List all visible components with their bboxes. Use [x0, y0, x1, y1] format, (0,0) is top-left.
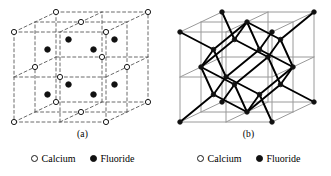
calcium-ion — [11, 29, 16, 34]
calcium-ion — [220, 10, 225, 15]
calcium-ion — [32, 64, 37, 69]
calcium-ion — [145, 9, 150, 14]
fluoride-ion — [278, 82, 283, 87]
calcium-ion — [178, 30, 183, 35]
panel-a-caption: (a) — [0, 128, 165, 140]
fluoride-ion — [66, 82, 72, 88]
fluoride-ion — [211, 47, 216, 52]
calcium-ion — [312, 100, 317, 105]
fluoride-ion — [211, 92, 216, 97]
fluoride-ion — [91, 92, 97, 98]
fluoride-ion — [66, 37, 72, 43]
legend-label-fluoride: Fluoride — [101, 152, 135, 165]
calcium-ion — [199, 65, 204, 70]
ion-bond — [214, 50, 227, 78]
calcium-ion — [53, 9, 58, 14]
calcium-ion — [312, 10, 317, 15]
calcium-ion — [78, 19, 83, 24]
filled-circle-icon — [256, 155, 263, 162]
cell-edge — [14, 12, 56, 32]
ion-bond — [235, 40, 269, 58]
ion-bond — [268, 57, 281, 85]
calcium-ion — [103, 119, 108, 124]
fluoride-ion — [112, 82, 118, 88]
fluoride-ion — [278, 37, 283, 42]
calcium-ion — [266, 55, 271, 60]
calcium-ion — [270, 120, 275, 125]
calcium-ion — [220, 100, 225, 105]
ion-bond — [222, 85, 235, 103]
calcium-ion — [99, 54, 104, 59]
ion-bond — [222, 12, 235, 40]
panel-a-fluorite-unit-cell: (a) Calcium Fluoride — [0, 0, 165, 176]
unit-cell-diagram-a — [0, 0, 165, 130]
calcium-ion — [145, 99, 150, 104]
calcium-ion — [57, 74, 62, 79]
legend-entry-fluoride-a: Fluoride — [90, 152, 135, 165]
cell-edge — [106, 12, 148, 32]
fluoride-ion — [112, 37, 118, 43]
ion-bond — [226, 50, 260, 78]
panel-b-fluorite-bonded-cell: (b) Calcium Fluoride — [166, 0, 331, 176]
ion-bond — [268, 40, 281, 58]
calcium-ion — [178, 120, 183, 125]
legend-label-calcium: Calcium — [42, 152, 76, 165]
ion-bond — [235, 57, 269, 85]
open-circle-icon — [31, 155, 38, 162]
calcium-ion — [53, 99, 58, 104]
fluoride-ion — [232, 37, 237, 42]
calcium-ion — [124, 64, 129, 69]
calcium-ion — [103, 29, 108, 34]
unit-cell-diagram-b — [166, 0, 331, 130]
ion-bond — [180, 32, 214, 50]
calcium-ion — [245, 20, 250, 25]
figure-root: (a) Calcium Fluoride (b) Calcium Fluorid… — [0, 0, 331, 176]
ion-bond — [201, 40, 235, 68]
open-circle-icon — [197, 155, 204, 162]
ion-bond — [201, 67, 235, 85]
calcium-ion — [11, 119, 16, 124]
panel-b-caption: (b) — [166, 128, 331, 140]
ion-bond — [260, 95, 273, 123]
ion-bond — [260, 67, 294, 95]
fluoride-ion — [45, 92, 51, 98]
calcium-ion — [224, 75, 229, 80]
legend-label-fluoride: Fluoride — [267, 152, 301, 165]
ion-bond — [281, 85, 315, 103]
fluoride-ion — [232, 82, 237, 87]
legend-entry-calcium-b: Calcium — [197, 152, 242, 165]
legend-b: Calcium Fluoride — [166, 152, 331, 165]
fluoride-ion — [257, 92, 262, 97]
legend-a: Calcium Fluoride — [0, 152, 165, 165]
fluoride-ion — [257, 47, 262, 52]
legend-entry-fluoride-b: Fluoride — [256, 152, 301, 165]
legend-entry-calcium-a: Calcium — [31, 152, 76, 165]
ion-bond — [247, 85, 281, 113]
calcium-ion — [291, 65, 296, 70]
ion-bond — [214, 22, 248, 50]
fluoride-ion — [45, 47, 51, 53]
fluoride-ion — [91, 47, 97, 53]
legend-label-calcium: Calcium — [208, 152, 242, 165]
ion-bond — [226, 77, 260, 95]
calcium-ion — [270, 30, 275, 35]
calcium-ion — [245, 110, 250, 115]
calcium-ion — [78, 109, 83, 114]
ion-bond — [260, 50, 294, 68]
filled-circle-icon — [90, 155, 97, 162]
